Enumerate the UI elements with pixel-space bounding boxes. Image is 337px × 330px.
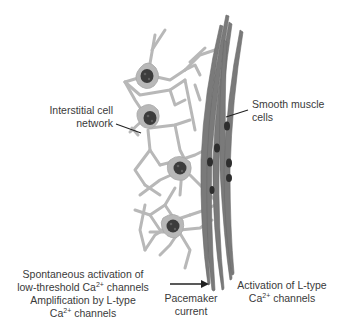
caption-right-line2: Ca2+ channels	[232, 292, 332, 305]
caption-left-line3: Amplification by L-type	[8, 294, 158, 307]
label-interstitial-cell-network: Interstitial cell network	[40, 104, 113, 130]
label-interstitial-line2: network	[40, 117, 113, 130]
pacemaker-arrow-icon	[170, 280, 209, 288]
caption-right: Activation of L-type Ca2+ channels	[232, 279, 332, 305]
caption-left-line1: Spontaneous activation of	[8, 268, 158, 281]
label-interstitial-line1: Interstitial cell	[40, 104, 113, 117]
caption-middle-line2: current	[160, 305, 222, 318]
caption-middle: Pacemaker current	[160, 292, 222, 318]
caption-middle-line1: Pacemaker	[160, 292, 222, 305]
smooth-muscle-cells	[201, 15, 243, 291]
label-smooth-muscle-cells: Smooth muscle cells	[252, 98, 324, 124]
caption-left-line2: low-threshold Ca2+ channels	[8, 281, 158, 294]
label-smooth-muscle-line1: Smooth muscle	[252, 98, 324, 111]
caption-right-line1: Activation of L-type	[232, 279, 332, 292]
caption-left: Spontaneous activation of low-threshold …	[8, 268, 158, 320]
caption-left-line4: Ca2+ channels	[8, 307, 158, 320]
label-smooth-muscle-line2: cells	[252, 111, 324, 124]
ic-smooth-muscle-diagram: Interstitial cell network Smooth muscle …	[0, 0, 337, 330]
